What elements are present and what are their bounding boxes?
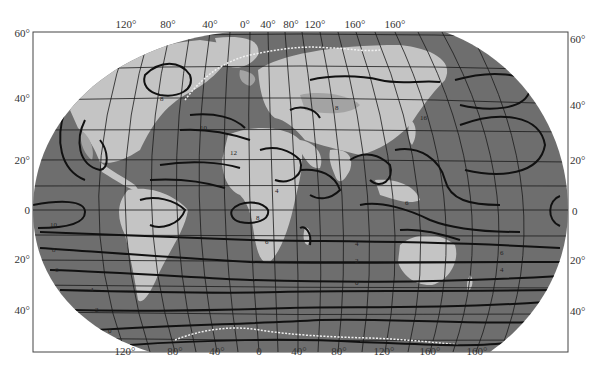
svg-text:6: 6 xyxy=(55,266,59,274)
svg-text:8: 8 xyxy=(335,104,339,112)
svg-text:0: 0 xyxy=(108,327,112,335)
lon-label-top: 0° xyxy=(240,19,250,30)
lat-label-right: 60° xyxy=(570,34,585,45)
lon-label-bottom: 160° xyxy=(420,346,441,357)
lon-label-bottom: 0 xyxy=(256,346,262,357)
svg-text:0: 0 xyxy=(355,279,359,287)
svg-text:4: 4 xyxy=(275,187,279,195)
lon-label-top: 80° xyxy=(160,19,175,30)
lat-label-right: 0 xyxy=(572,206,578,217)
map-figure: 10 8 6 4 2 0 8 10 12 8 6 4 0 2 4 6 8 16 … xyxy=(0,0,601,374)
lon-label-bottom: 120° xyxy=(115,346,136,357)
svg-text:10: 10 xyxy=(50,221,58,229)
lat-label-right: 20° xyxy=(570,155,585,166)
lon-label-bottom: 80° xyxy=(167,346,182,357)
svg-text:8: 8 xyxy=(256,214,260,222)
svg-text:2: 2 xyxy=(95,306,99,314)
lon-label-top: 80° xyxy=(283,19,298,30)
lon-label-bottom: 120° xyxy=(374,346,395,357)
lat-label-left: 60° xyxy=(0,28,30,39)
svg-text:12: 12 xyxy=(230,149,238,157)
svg-text:10: 10 xyxy=(200,124,208,132)
svg-text:4: 4 xyxy=(90,286,94,294)
lon-label-top: 160° xyxy=(385,19,406,30)
lon-label-bottom: 160° xyxy=(467,346,488,357)
svg-text:6: 6 xyxy=(500,249,504,257)
svg-text:6: 6 xyxy=(405,199,409,207)
svg-text:6: 6 xyxy=(265,238,269,246)
svg-text:8: 8 xyxy=(160,95,164,103)
lat-label-left: 20° xyxy=(0,254,30,265)
lon-label-bottom: 40° xyxy=(209,346,224,357)
svg-text:4: 4 xyxy=(500,266,504,274)
lon-label-bottom: 40° xyxy=(291,346,306,357)
svg-text:8: 8 xyxy=(52,246,56,254)
svg-text:16: 16 xyxy=(420,114,428,122)
lon-label-top: 160° xyxy=(345,19,366,30)
svg-text:4: 4 xyxy=(355,240,359,248)
lat-label-left: 40° xyxy=(0,305,30,316)
lat-label-left: 40° xyxy=(0,93,30,104)
lon-label-top: 40° xyxy=(202,19,217,30)
map-canvas: 10 8 6 4 2 0 8 10 12 8 6 4 0 2 4 6 8 16 … xyxy=(0,0,601,374)
lat-label-right: 20° xyxy=(570,255,585,266)
lat-label-right: 40° xyxy=(570,306,585,317)
lat-label-left: 20° xyxy=(0,155,30,166)
svg-text:2: 2 xyxy=(355,257,359,265)
lon-label-bottom: 80° xyxy=(331,346,346,357)
lon-label-top: 120° xyxy=(305,19,326,30)
lon-label-top: 120° xyxy=(116,19,137,30)
lon-label-top: 40° xyxy=(260,19,275,30)
lat-label-right: 40° xyxy=(570,100,585,111)
lat-label-left: 0 xyxy=(0,205,30,216)
